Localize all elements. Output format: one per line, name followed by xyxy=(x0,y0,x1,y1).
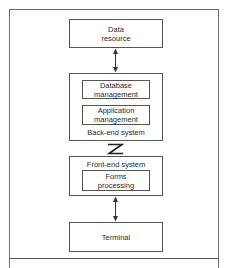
bidirectional-arrow-icon xyxy=(113,197,118,222)
network-zigzag-icon xyxy=(108,145,123,154)
bidirectional-arrow-icon xyxy=(113,49,118,73)
